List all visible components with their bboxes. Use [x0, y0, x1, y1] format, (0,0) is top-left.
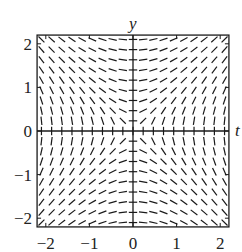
slope-segment — [89, 48, 97, 52]
slope-segment — [224, 147, 226, 155]
slope-segment — [139, 79, 147, 81]
slope-segment — [160, 58, 168, 61]
slope-segment — [201, 67, 206, 73]
slope-segment — [91, 137, 93, 145]
x-tick-label: 1 — [172, 234, 181, 252]
slope-segment — [68, 37, 75, 42]
slope-segment — [224, 117, 225, 125]
slope-segment — [202, 178, 207, 185]
slope-segment — [70, 168, 75, 175]
slope-segment — [161, 107, 166, 114]
slope-segment — [69, 189, 75, 195]
slope-segment — [211, 37, 217, 43]
slope-segment — [110, 108, 116, 114]
slope-segment — [51, 147, 53, 155]
slope-segment — [213, 97, 216, 105]
slope-segment — [224, 137, 225, 145]
slope-segment — [78, 37, 85, 41]
slope-segment — [39, 199, 44, 206]
slope-segment — [119, 160, 127, 163]
slope-segment — [193, 147, 196, 155]
slope-segment — [139, 160, 147, 163]
slope-segment — [119, 149, 127, 153]
slope-segment — [109, 201, 117, 203]
slope-segment — [149, 39, 157, 41]
slope-segment — [170, 78, 177, 83]
slope-segment — [193, 137, 194, 145]
slope-segment — [49, 189, 54, 196]
slope-segment — [60, 87, 64, 94]
slope-segment — [119, 109, 127, 113]
slope-segment — [191, 77, 196, 83]
slope-segment — [61, 147, 63, 155]
slope-segment — [172, 148, 176, 156]
slope-segment — [223, 158, 226, 166]
slope-segment — [172, 107, 176, 115]
slope-segment — [149, 69, 157, 72]
slope-segment — [81, 147, 84, 155]
slope-segment — [193, 107, 196, 115]
slope-segment — [213, 147, 215, 155]
slope-segment — [222, 36, 228, 42]
slope-segment — [49, 57, 55, 63]
slope-segment — [99, 201, 107, 204]
slope-segment — [151, 137, 155, 145]
slope-segment — [89, 87, 95, 93]
slope-segment — [89, 211, 97, 215]
slope-segment — [181, 179, 187, 185]
slope-segment — [60, 168, 64, 175]
slope-segment — [140, 138, 146, 144]
slope-segment — [193, 117, 194, 125]
slope-segment — [119, 202, 127, 203]
slope-segment — [59, 57, 65, 63]
slope-segment — [149, 211, 157, 213]
slope-segment — [191, 199, 197, 204]
slope-segment — [181, 77, 187, 83]
slope-segment — [119, 99, 127, 102]
slope-segment — [99, 58, 107, 61]
y-tick-label: 0 — [24, 122, 33, 141]
slope-segment — [139, 89, 147, 91]
slope-segment — [41, 107, 43, 115]
slope-segment — [222, 209, 228, 215]
slope-segment — [70, 97, 74, 105]
slope-segment — [203, 147, 205, 155]
slope-segment — [89, 58, 96, 62]
slope-segment — [81, 137, 83, 145]
slope-segment — [160, 169, 167, 174]
slope-segment — [192, 158, 196, 166]
slope-segment — [69, 210, 76, 215]
slope-segment — [171, 97, 176, 104]
slope-segment — [149, 180, 157, 183]
slope-segment — [181, 189, 187, 194]
slope-segment — [80, 168, 85, 175]
slope-segment — [181, 168, 186, 175]
slope-segment — [212, 199, 218, 205]
slope-segment — [119, 39, 127, 40]
y-tick-labels: 210−1−2 — [14, 35, 32, 228]
slope-segment — [160, 201, 168, 204]
slope-segment — [149, 49, 157, 51]
slope-segment — [80, 87, 85, 94]
slope-segment — [89, 169, 95, 175]
slope-segment — [60, 158, 63, 166]
slope-segment — [71, 117, 72, 125]
slope-segment — [98, 221, 106, 224]
slope-segment — [149, 222, 157, 224]
slope-segment — [59, 199, 65, 205]
slope-segment — [59, 67, 64, 73]
slope-segment — [79, 47, 86, 51]
slope-segment — [59, 178, 64, 185]
slope-segment — [119, 79, 127, 81]
slope-segment — [191, 47, 198, 52]
slope-segment — [71, 147, 74, 155]
slope-segment — [109, 211, 117, 213]
slope-segment — [224, 107, 226, 115]
slope-segment — [90, 107, 94, 115]
slope-segment — [150, 170, 158, 174]
y-tick-label: 1 — [24, 78, 33, 97]
slope-segment — [222, 199, 227, 206]
slope-segment — [204, 137, 205, 145]
slope-segment — [212, 57, 218, 63]
slope-segment — [109, 159, 116, 164]
